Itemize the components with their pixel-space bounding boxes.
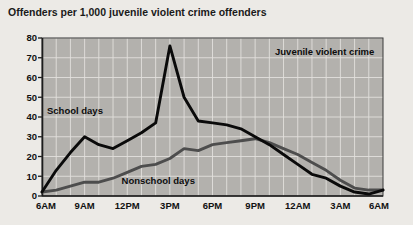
x-axis-tick-label-12AM: 12AM [285,200,310,211]
x-axis-ticks: 6AM9AM12PM3PM6PM9PM12AM3AM6AM [36,200,389,211]
x-axis-tick-label-6PM: 6PM [203,200,223,211]
annotation-nonschool-days: Nonschool days [122,175,195,186]
y-axis-tick-label-20: 20 [26,151,37,162]
x-axis-tick-label-9PM: 9PM [245,200,265,211]
annotation-juvenile-violent-crime: Juvenile violent crime [275,46,374,57]
y-axis-ticks: 01020304050607080 [26,32,42,201]
x-axis-tick-label-6AM: 6AM [369,200,389,211]
x-axis-tick-label-6AM: 6AM [36,200,56,211]
y-axis-tick-label-40: 40 [26,111,37,122]
y-axis-tick-label-60: 60 [26,72,37,83]
x-axis-tick-label-3PM: 3PM [160,200,180,211]
y-axis-tick-label-30: 30 [26,131,37,142]
juvenile-crime-line-chart: Offenders per 1,000 juvenile violent cri… [0,0,413,225]
annotation-school-days: School days [47,105,103,116]
y-axis-tick-label-10: 10 [26,171,37,182]
x-axis-tick-label-12PM: 12PM [115,200,140,211]
y-axis-tick-label-80: 80 [26,32,37,43]
chart-title: Offenders per 1,000 juvenile violent cri… [8,6,267,18]
x-axis-tick-label-3AM: 3AM [330,200,350,211]
y-axis-tick-label-70: 70 [26,52,37,63]
x-axis-tick-label-9AM: 9AM [75,200,95,211]
y-axis-tick-label-50: 50 [26,92,37,103]
